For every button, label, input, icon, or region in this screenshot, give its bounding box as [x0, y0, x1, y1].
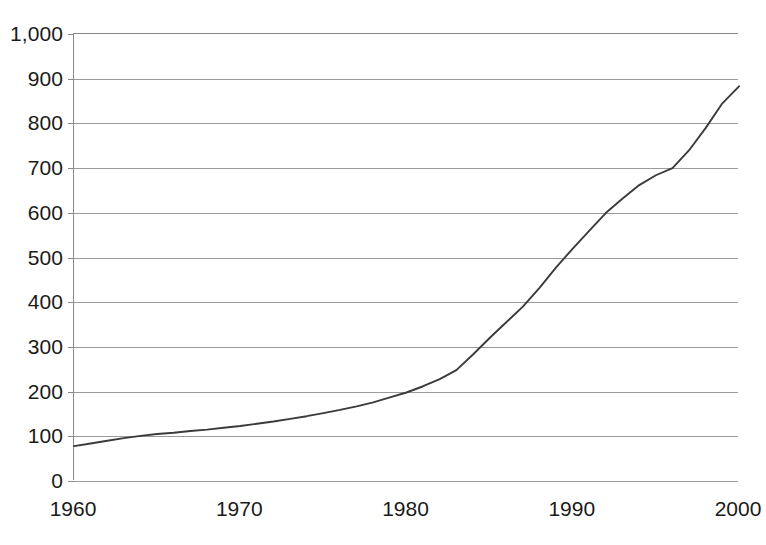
x-tick-label-1990: 1990	[517, 498, 627, 520]
x-tick-label-1970: 1970	[184, 498, 294, 520]
gridline-0	[74, 481, 738, 482]
x-tick-label-1980: 1980	[351, 498, 461, 520]
x-tick-label-2000: 2000	[683, 498, 766, 520]
y-tick-label-900: 900	[0, 68, 63, 89]
y-tick-label-400: 400	[0, 291, 63, 312]
y-tick-label-800: 800	[0, 112, 63, 133]
y-tick-mark-0	[68, 481, 74, 482]
y-tick-label-100: 100	[0, 425, 63, 446]
y-tick-label-500: 500	[0, 247, 63, 268]
y-tick-label-1000: 1,000	[0, 23, 63, 44]
data-series-layer	[74, 34, 739, 481]
y-tick-label-0: 0	[0, 470, 63, 491]
y-tick-label-300: 300	[0, 336, 63, 357]
y-tick-label-700: 700	[0, 157, 63, 178]
data-line-series-1	[74, 86, 739, 446]
plot-area	[73, 33, 738, 480]
y-tick-label-200: 200	[0, 381, 63, 402]
x-tick-label-1960: 1960	[18, 498, 128, 520]
y-tick-label-600: 600	[0, 202, 63, 223]
